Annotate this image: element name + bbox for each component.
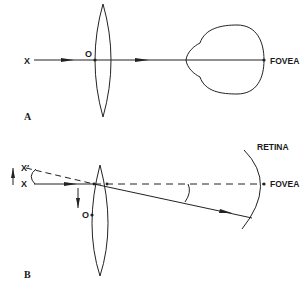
fovea-label-a: FOVEA <box>270 56 299 66</box>
nodal-point-dot-b <box>90 213 93 216</box>
ray-arrow-icon <box>61 58 74 62</box>
fovea-dot-a <box>262 58 265 61</box>
nodal-dot-b2 <box>106 183 109 186</box>
nodal-dot-b1 <box>93 183 96 186</box>
fovea-label-b: FOVEA <box>270 179 299 189</box>
panel-b: X′ X O RETINA FOVEA B <box>13 142 299 280</box>
nodal-label-b: O <box>82 210 89 220</box>
displaced-object-label-b: X′ <box>21 163 29 173</box>
retina-arc <box>242 150 261 229</box>
angle-arc-right <box>185 184 189 202</box>
nodal-label-a: O <box>85 49 92 59</box>
lens-b <box>92 165 108 276</box>
object-label-a: X <box>24 56 30 66</box>
object-label-b: X <box>21 179 27 189</box>
retina-label-b: RETINA <box>257 142 289 152</box>
nodal-point-dot-a <box>93 58 96 61</box>
angle-arc-left <box>31 169 36 184</box>
dashed-line-x-prime <box>26 168 94 184</box>
optics-diagram: X O FOVEA A X′ X O RETINA FOVEA <box>0 0 305 291</box>
fovea-dot-b <box>262 182 265 185</box>
diagram-root: X O FOVEA A X′ X O RETINA FOVEA <box>0 0 305 291</box>
panel-label-b: B <box>24 269 31 280</box>
ray-arrow-icon <box>64 182 77 186</box>
ray-arrow-icon <box>219 209 232 213</box>
panel-label-a: A <box>24 111 32 122</box>
ray-arrow-icon <box>135 58 149 62</box>
panel-a: X O FOVEA A <box>24 4 299 122</box>
